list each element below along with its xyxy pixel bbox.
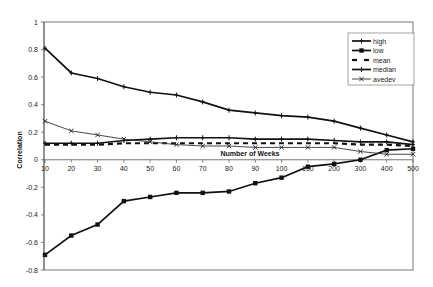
low-marker bbox=[174, 191, 178, 195]
y-tick-label: 1 bbox=[34, 19, 38, 26]
y-tick-label: 0.4 bbox=[28, 101, 38, 108]
low-marker bbox=[253, 181, 257, 185]
y-tick-label: 0.2 bbox=[28, 129, 38, 136]
series-median bbox=[43, 135, 415, 147]
x-tick-label: 80 bbox=[225, 165, 233, 172]
low-marker bbox=[69, 233, 73, 237]
low-marker bbox=[148, 195, 152, 199]
low-marker bbox=[411, 147, 415, 151]
legend-label: high bbox=[373, 38, 386, 46]
x-tick-label: 100 bbox=[276, 165, 288, 172]
legend-label: median bbox=[373, 66, 396, 73]
y-axis: 10.80.60.40.20-0.2-0.4-0.6-0.8 bbox=[26, 19, 44, 274]
correlation-chart: 10.80.60.40.20-0.2-0.4-0.6-0.8 102030405… bbox=[0, 0, 433, 287]
low-marker bbox=[43, 253, 47, 257]
y-tick-label: -0.2 bbox=[26, 184, 38, 191]
x-tick-label: 300 bbox=[355, 165, 367, 172]
x-tick-label: 50 bbox=[146, 165, 154, 172]
legend: highlowmeanmedianavedev bbox=[348, 33, 414, 85]
x-tick-label: 10 bbox=[41, 165, 49, 172]
low-marker bbox=[332, 162, 336, 166]
y-tick-label: -0.8 bbox=[26, 267, 38, 274]
y-tick-label: -0.4 bbox=[26, 211, 38, 218]
low-marker bbox=[306, 164, 310, 168]
legend-label: mean bbox=[373, 57, 391, 64]
y-tick-label: -0.6 bbox=[26, 239, 38, 246]
low-marker bbox=[385, 148, 389, 152]
x-tick-label: 90 bbox=[251, 165, 259, 172]
low-marker bbox=[279, 175, 283, 179]
x-tick-label: 60 bbox=[173, 165, 181, 172]
legend-label: avedev bbox=[373, 76, 396, 83]
x-tick-label: 70 bbox=[199, 165, 207, 172]
series-low bbox=[43, 147, 415, 257]
x-axis-title: Number of Weeks bbox=[221, 150, 280, 157]
low-marker bbox=[95, 222, 99, 226]
y-tick-label: 0.6 bbox=[28, 74, 38, 81]
x-tick-label: 500 bbox=[407, 165, 419, 172]
low-marker bbox=[358, 158, 362, 162]
y-tick-label: 0 bbox=[34, 156, 38, 163]
low-marker bbox=[201, 191, 205, 195]
x-tick-label: 20 bbox=[67, 165, 75, 172]
low-marker bbox=[122, 199, 126, 203]
low-marker bbox=[227, 189, 231, 193]
legend-low-marker bbox=[359, 48, 363, 52]
legend-label: low bbox=[373, 47, 384, 54]
x-tick-label: 400 bbox=[381, 165, 393, 172]
x-tick-label: 30 bbox=[94, 165, 102, 172]
x-tick-label: 40 bbox=[120, 165, 128, 172]
y-tick-label: 0.8 bbox=[28, 46, 38, 53]
y-axis-title: Correlation bbox=[16, 131, 23, 168]
